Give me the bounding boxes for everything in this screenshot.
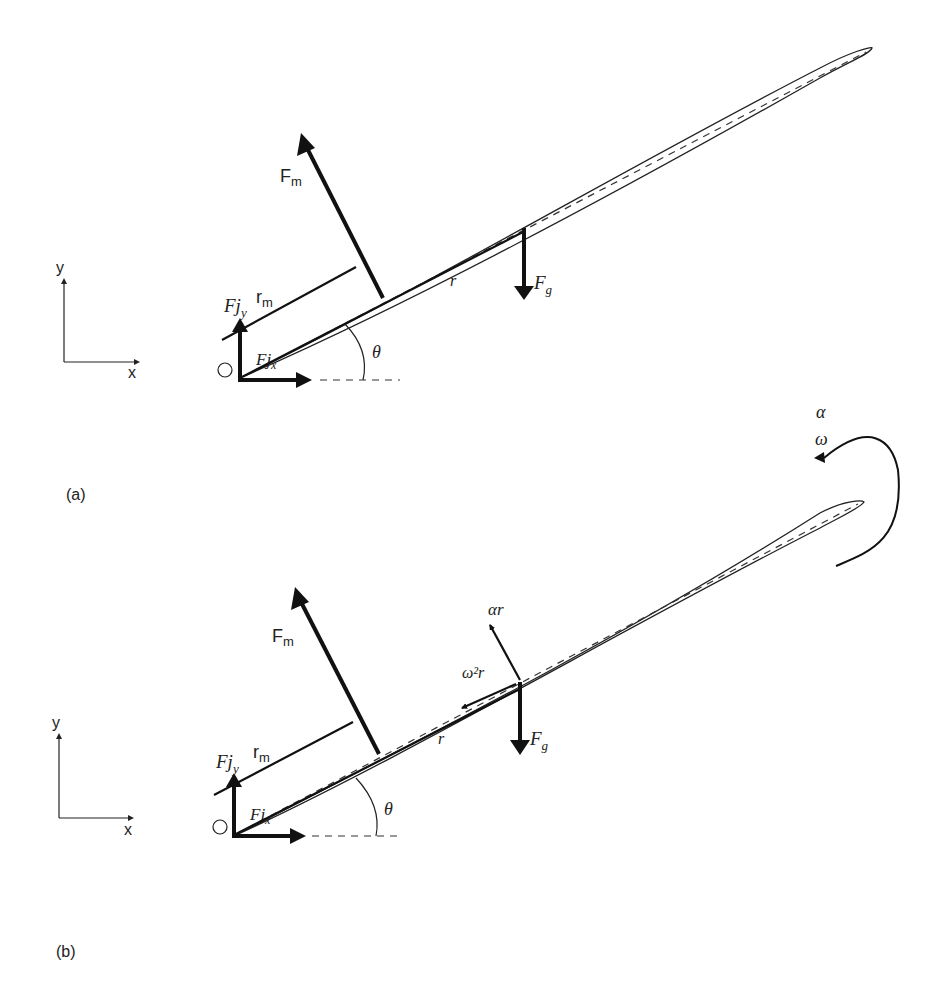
theta-arc-b (356, 778, 377, 836)
theta-arc-a (345, 324, 365, 380)
alpha-label: α (816, 402, 826, 422)
r-label-a: r (450, 272, 457, 289)
fm-arrow-a (308, 150, 383, 298)
origin-marker-b (213, 820, 227, 834)
fg-label-b: Fg (529, 728, 549, 753)
y-axis-label: y (56, 259, 64, 276)
fm-label-a: Fm (280, 166, 302, 189)
r-lever-arm-a (242, 232, 523, 377)
axes-a: y x (56, 259, 140, 381)
fjx-label-b: Fjx (249, 805, 271, 827)
omega-label: ω (815, 429, 828, 449)
fm-arrow-b (302, 604, 379, 754)
rm-label-a: rm (256, 287, 273, 310)
x-axis-label: x (128, 364, 136, 381)
panel-a: y x θ Fjy Fjx rm r Fm Fg (56, 48, 872, 503)
tangential-accel-arrow-b (490, 625, 520, 680)
axes-b: y x (52, 714, 134, 838)
fjy-label-a: Fjy (223, 295, 247, 320)
caption-b: (b) (56, 943, 76, 960)
x-axis-label: x (124, 821, 132, 838)
rm-label-b: rm (253, 742, 270, 765)
blade-free-body-diagram: y x θ Fjy Fjx rm r Fm Fg (0, 0, 939, 988)
theta-label-a: θ (372, 342, 381, 362)
theta-label-b: θ (384, 799, 393, 819)
panel-b: y x θ Fjy Fjx rm r Fm Fg αr ω²r (52, 402, 899, 960)
origin-marker-a (218, 363, 232, 377)
caption-a: (a) (66, 486, 86, 503)
omega2-r-label: ω²r (462, 664, 485, 681)
y-axis-label: y (52, 714, 60, 731)
blade-centerline-b (236, 504, 858, 834)
fm-label-b: Fm (272, 626, 294, 649)
fjy-label-b: Fjy (215, 751, 239, 776)
fg-label-a: Fg (533, 272, 553, 297)
r-label-b: r (438, 730, 445, 747)
alpha-r-label: αr (488, 600, 504, 619)
